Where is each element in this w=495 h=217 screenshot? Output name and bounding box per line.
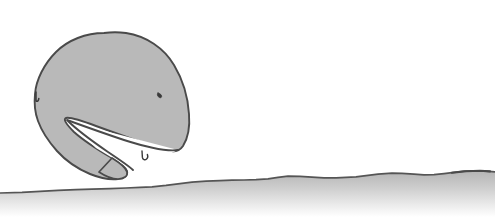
tooth-mark-icon (142, 151, 148, 160)
illustration-svg (0, 0, 495, 217)
ground-group (0, 171, 495, 217)
whale-group (35, 32, 190, 179)
illustration-canvas: Whale with open mouth above a ground hor… (0, 0, 495, 217)
ground-fill (0, 171, 495, 217)
